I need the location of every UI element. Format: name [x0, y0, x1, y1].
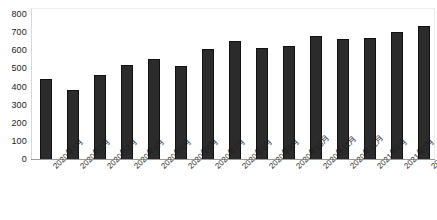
y-tick-label: 700: [11, 27, 27, 37]
x-tick-label: 2020年8月: [239, 163, 247, 171]
y-tick-label: 600: [11, 45, 27, 55]
y-tick-label: 400: [11, 82, 27, 92]
x-tick-label: 2020年4月: [131, 163, 139, 171]
y-tick-label: 800: [11, 9, 27, 19]
x-tick-label: 2020年10月: [293, 163, 301, 171]
y-tick-label: 200: [11, 118, 27, 128]
x-tick-label: 2020年5月: [158, 163, 166, 171]
y-axis: 800 700 600 500 400 300 200 100 0: [0, 0, 31, 220]
y-tick-label: 300: [11, 100, 27, 110]
x-tick-label: 2021年2月: [401, 163, 409, 171]
x-tick-label: 2020年2月: [77, 163, 85, 171]
x-tick-label: 2020年6月: [185, 163, 193, 171]
x-tick-label: 2020年9月: [266, 163, 274, 171]
x-tick-label: 2020年11月: [320, 163, 328, 171]
x-tick-label: 2021年1月: [374, 163, 382, 171]
x-tick-label: 2020年1月: [50, 163, 58, 171]
x-tick-label: 2020年7月: [212, 163, 220, 171]
bar: [40, 79, 52, 160]
y-tick-label: 100: [11, 136, 27, 146]
x-axis: 2020年1月2020年2月2020年3月2020年4月2020年5月2020年…: [31, 161, 435, 220]
x-tick-label: 2021年3月: [428, 163, 436, 171]
x-tick-label: 2020年3月: [104, 163, 112, 171]
x-tick-label: 2020年12月: [347, 163, 355, 171]
y-tick-label: 500: [11, 63, 27, 73]
y-tick-label: 0: [22, 154, 27, 164]
bar-chart: 800 700 600 500 400 300 200 100 0 2020年1…: [0, 0, 437, 220]
